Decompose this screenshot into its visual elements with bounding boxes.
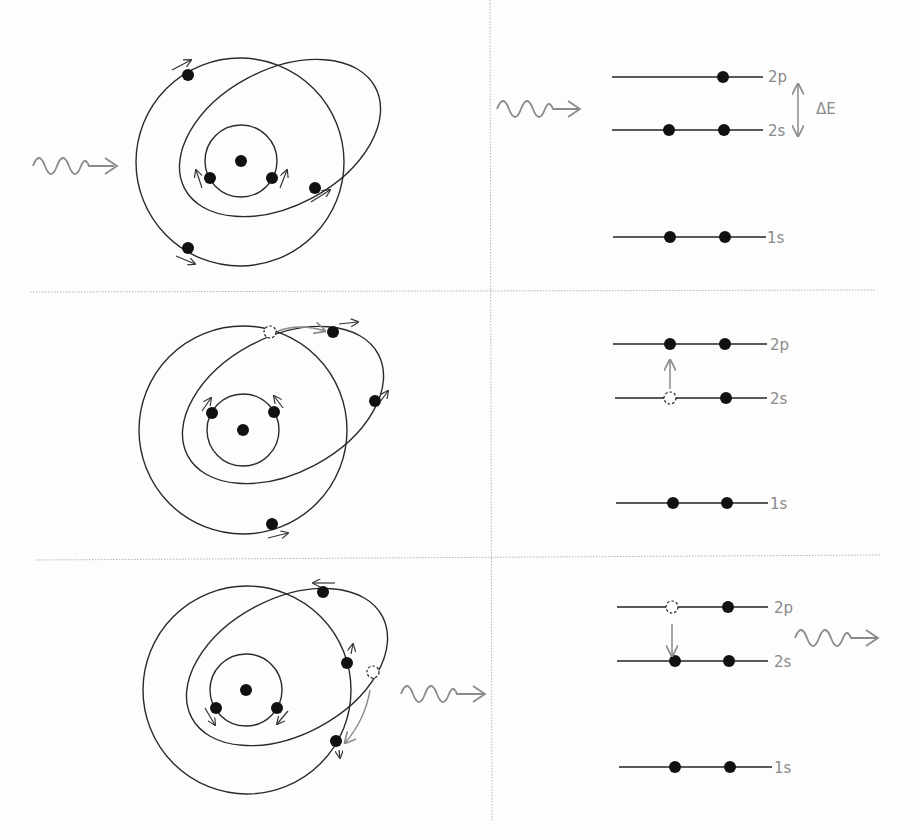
electron-1s (271, 702, 283, 714)
electron (664, 231, 676, 243)
nucleus (235, 155, 247, 167)
electron-2p (369, 395, 381, 407)
outgoing-photon-wave-icon (401, 686, 483, 702)
orbital-panel-emission (143, 556, 485, 794)
direction-arrow-icon (196, 170, 202, 188)
electron (723, 655, 735, 667)
level-label-1s: 1s (774, 759, 792, 777)
electron (663, 124, 675, 136)
horizontal-divider-1 (30, 290, 875, 292)
electron (669, 655, 681, 667)
level-label-1s: 1s (770, 495, 788, 513)
electron-2s (330, 735, 342, 747)
incoming-photon-wave-icon (497, 101, 579, 117)
grid-dividers (30, 0, 880, 820)
direction-arrow-icon (351, 644, 353, 654)
level-label-2p: 2p (770, 336, 789, 354)
electron-2p (317, 586, 329, 598)
nucleus (240, 684, 252, 696)
energy-panel-absorption: 2p 2s 1s (613, 336, 789, 513)
nucleus (237, 424, 249, 436)
transition-arrow-icon (278, 327, 325, 331)
delta-e-label: ΔE (816, 100, 836, 118)
electron (721, 497, 733, 509)
electron (720, 392, 732, 404)
electron-2s (182, 242, 194, 254)
level-label-2s: 2s (774, 653, 792, 671)
direction-arrow-icon (268, 533, 288, 538)
orbital-panel-absorption (139, 294, 410, 538)
electron-1s (266, 172, 278, 184)
electron-2p (309, 182, 321, 194)
level-label-2s: 2s (768, 122, 786, 140)
electron (669, 761, 681, 773)
electron-1s (204, 172, 216, 184)
direction-arrow-icon (176, 256, 195, 264)
level-label-2p: 2p (774, 599, 793, 617)
vacancy-2s (264, 326, 276, 338)
incoming-photon-wave-icon (33, 158, 114, 174)
electron (722, 601, 734, 613)
electron (724, 761, 736, 773)
energy-panel-incoming: 2p 2s 1s ΔE (497, 68, 836, 247)
electron (717, 71, 729, 83)
level-label-2s: 2s (770, 390, 788, 408)
electron (719, 338, 731, 350)
atom-transition-diagram: 2p 2s 1s ΔE 2p 2s 1s (0, 0, 913, 837)
electron-2p (327, 326, 339, 338)
horizontal-divider-2 (35, 555, 880, 560)
electron (719, 231, 731, 243)
electron (667, 497, 679, 509)
orbital-panel-incoming (33, 27, 407, 266)
direction-arrow-icon (280, 170, 287, 188)
outgoing-photon-wave-icon (795, 630, 877, 646)
vacancy (664, 392, 676, 404)
direction-arrow-icon (339, 750, 340, 758)
electron (718, 124, 730, 136)
electron-1s (206, 407, 218, 419)
direction-arrow-icon (172, 60, 191, 70)
vacancy (666, 601, 678, 613)
electron-1s (210, 702, 222, 714)
level-label-2p: 2p (768, 68, 787, 86)
electron (664, 338, 676, 350)
electron-2s (182, 69, 194, 81)
electron-2s (341, 657, 353, 669)
electron-2s (266, 518, 278, 530)
level-label-1s: 1s (767, 229, 785, 247)
direction-arrow-icon (339, 322, 358, 324)
vacancy-2p (367, 666, 379, 678)
electron-1s (268, 406, 280, 418)
vertical-divider (490, 0, 492, 820)
transition-arrow-icon (345, 690, 370, 743)
energy-panel-emission: 2p 2s 1s (617, 599, 878, 777)
